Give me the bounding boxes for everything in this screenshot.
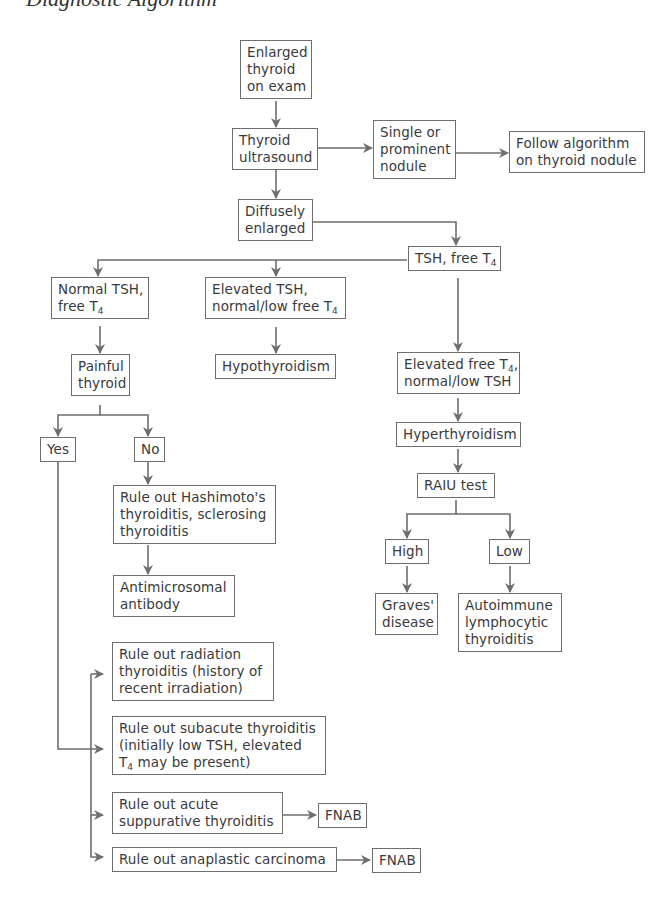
node-normal-tsh: Normal TSH, free T4 xyxy=(51,277,149,319)
node-line: may be present) xyxy=(133,754,250,770)
node-line: Hypothyroidism xyxy=(222,358,329,375)
node-line: on thyroid nodule xyxy=(516,152,638,169)
node-single-nodule: Single or prominent nodule xyxy=(373,120,456,179)
node-line: Rule out radiation xyxy=(119,646,267,663)
node-hyperthyroidism: Hyperthyroidism xyxy=(396,422,521,447)
node-line: thyroid xyxy=(247,61,305,78)
node-antimicrosomal-antibody: Antimicrosomal antibody xyxy=(113,575,235,617)
node-line: High xyxy=(392,543,422,560)
node-line: ultrasound xyxy=(239,149,311,166)
node-line: thyroiditis, sclerosing xyxy=(120,506,269,523)
node-line: Elevated free T xyxy=(404,356,508,372)
node-line: Yes xyxy=(47,441,69,458)
node-autoimmune-thyroiditis: Autoimmune lymphocytic thyroiditis xyxy=(458,593,562,652)
subscript: 4 xyxy=(491,258,497,268)
subscript: 4 xyxy=(98,306,104,316)
node-line: suppurative thyroiditis xyxy=(119,813,276,830)
node-painful-thyroid: Painful thyroid xyxy=(71,354,130,396)
node-line: normal/low free T xyxy=(212,298,332,314)
node-line: Diffusely xyxy=(245,203,306,220)
node-fnab-2: FNAB xyxy=(372,848,421,873)
node-line: Graves' xyxy=(382,597,431,614)
node-rule-out-subacute: Rule out subacute thyroiditis (initially… xyxy=(112,716,326,775)
node-line: , xyxy=(514,356,518,372)
node-line: Follow algorithm xyxy=(516,135,638,152)
node-line: Thyroid xyxy=(239,132,311,149)
node-diffusely-enlarged: Diffusely enlarged xyxy=(238,199,313,241)
node-line: RAIU test xyxy=(424,477,488,494)
node-line: thyroiditis (history of xyxy=(119,663,267,680)
node-raiu-test: RAIU test xyxy=(417,473,495,498)
node-line: FNAB xyxy=(325,807,360,824)
node-line: Normal TSH, xyxy=(58,281,142,298)
node-line: recent irradiation) xyxy=(119,680,267,697)
node-line: FNAB xyxy=(379,852,414,869)
node-high: High xyxy=(385,539,429,564)
node-hypothyroidism: Hypothyroidism xyxy=(215,354,336,379)
node-line: thyroiditis xyxy=(120,523,269,540)
node-line: on exam xyxy=(247,78,305,95)
node-tsh-free-t4: TSH, free T4 xyxy=(408,246,501,271)
node-rule-out-radiation: Rule out radiation thyroiditis (history … xyxy=(112,642,274,701)
node-line: Autoimmune xyxy=(465,597,555,614)
node-line: Enlarged xyxy=(247,44,305,61)
node-line: prominent xyxy=(380,141,449,158)
node-line: normal/low TSH xyxy=(404,373,513,390)
node-no: No xyxy=(134,437,165,462)
node-elevated-free-t4: Elevated free T4, normal/low TSH xyxy=(397,352,520,394)
node-line: Rule out anaplastic carcinoma xyxy=(119,851,330,868)
node-line: Low xyxy=(496,543,523,560)
node-rule-out-hashimoto: Rule out Hashimoto's thyroiditis, sclero… xyxy=(113,485,276,544)
node-line: Rule out subacute thyroiditis xyxy=(119,720,319,737)
node-line: lymphocytic xyxy=(465,614,555,631)
node-line: nodule xyxy=(380,158,449,175)
node-line: Hyperthyroidism xyxy=(403,426,514,443)
node-line: free T xyxy=(58,298,98,314)
node-line: No xyxy=(141,441,158,458)
node-follow-algorithm: Follow algorithm on thyroid nodule xyxy=(509,131,645,173)
node-line: Elevated TSH, xyxy=(212,281,339,298)
node-low: Low xyxy=(489,539,530,564)
node-thyroid-ultrasound: Thyroid ultrasound xyxy=(232,128,318,170)
node-enlarged-thyroid: Enlarged thyroid on exam xyxy=(240,40,312,99)
node-line: Antimicrosomal xyxy=(120,579,228,596)
node-line: Rule out Hashimoto's xyxy=(120,489,269,506)
node-line: Single or xyxy=(380,124,449,141)
node-line: thyroid xyxy=(78,375,123,392)
node-text: TSH, free T xyxy=(415,250,491,266)
node-yes: Yes xyxy=(40,437,76,462)
node-rule-out-anaplastic: Rule out anaplastic carcinoma xyxy=(112,847,337,872)
node-graves-disease: Graves' disease xyxy=(375,593,438,635)
subscript: 4 xyxy=(332,306,338,316)
node-line: Rule out acute xyxy=(119,796,276,813)
node-line: disease xyxy=(382,614,431,631)
node-rule-out-acute: Rule out acute suppurative thyroiditis xyxy=(112,792,283,834)
node-line: Painful xyxy=(78,358,123,375)
node-line: thyroiditis xyxy=(465,631,555,648)
node-line: enlarged xyxy=(245,220,306,237)
node-line: antibody xyxy=(120,596,228,613)
node-line: (initially low TSH, elevated xyxy=(119,737,319,754)
node-elevated-tsh: Elevated TSH, normal/low free T4 xyxy=(205,277,346,319)
node-fnab-1: FNAB xyxy=(318,803,367,828)
